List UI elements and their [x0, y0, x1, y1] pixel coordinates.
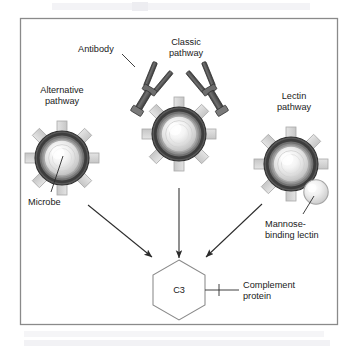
scan-artifact-bottom — [24, 331, 330, 346]
scan-artifact-top — [52, 2, 310, 11]
complement-protein-label-line1: Complement — [243, 280, 296, 290]
classic-pathway-label-line1: Classic — [171, 37, 201, 47]
alternative-pathway-label-line2: pathway — [45, 96, 80, 106]
complement-protein-label-line2: protein — [243, 291, 271, 301]
classic-pathway-label-line2: pathway — [169, 48, 204, 58]
mannose-binding-lectin-sphere — [304, 180, 328, 204]
complement-pathways-figure: Alternative pathway Microbe Classic path… — [0, 0, 358, 352]
antibody-label: Antibody — [78, 44, 114, 54]
mannose-label-line2: binding lectin — [265, 230, 319, 240]
microbe-body — [152, 107, 206, 161]
classic-pathway-microbe — [142, 97, 216, 171]
c3-label: C3 — [173, 285, 185, 295]
diagram-canvas: Alternative pathway Microbe Classic path… — [0, 0, 358, 352]
lectin-pathway-label-line1: Lectin — [282, 91, 307, 101]
mannose-label-line1: Mannose- — [265, 219, 306, 229]
alternative-pathway-label-line1: Alternative — [40, 85, 83, 95]
lectin-pathway-label-line2: pathway — [277, 102, 312, 112]
microbe-label: Microbe — [28, 197, 61, 207]
